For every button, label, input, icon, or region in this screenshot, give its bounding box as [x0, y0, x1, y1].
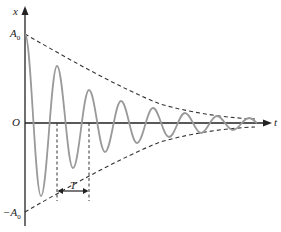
period-label: T [70, 180, 76, 191]
arrow-right-icon [83, 188, 89, 194]
damped-oscillation-diagram [0, 0, 281, 232]
amplitude-positive-label: A0 [10, 28, 20, 42]
amplitude-negative-label: −A0 [3, 207, 21, 221]
x-axis-label: t [274, 117, 277, 128]
x-axis-arrow-icon [263, 120, 272, 127]
y-axis-arrow-icon [22, 6, 29, 15]
axes [25, 12, 266, 226]
y-axis-label: x [13, 6, 18, 17]
origin-label: O [12, 117, 20, 128]
damped-wave [25, 34, 257, 196]
